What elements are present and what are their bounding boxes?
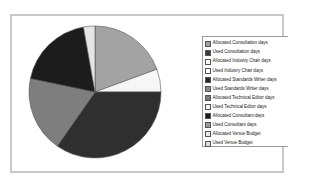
legend-item: Used Technical Editor days <box>205 103 288 112</box>
legend-item: Allocated Venue Budget <box>205 130 288 139</box>
legend-swatch-icon <box>205 95 211 101</box>
legend-swatch-icon <box>205 50 211 56</box>
legend-swatch-icon <box>205 86 211 92</box>
legend-item: Allocated Consultant days <box>205 112 288 121</box>
legend-label: Used Industry Chair days <box>213 69 263 74</box>
legend-swatch-icon <box>205 122 211 128</box>
legend-swatch-icon <box>205 113 211 119</box>
legend-label: Allocated Industry Chair days <box>213 59 271 64</box>
legend-label: Allocated Venue Budget <box>213 132 261 137</box>
legend-label: Used Standards Writer days <box>213 87 269 92</box>
pie-chart <box>27 24 163 160</box>
legend-label: Used Technical Editor days <box>213 105 267 110</box>
legend-item: Allocated Technical Editor days <box>205 94 288 103</box>
legend-item: Allocated Consultation days <box>205 39 288 48</box>
pie-svg <box>27 24 163 160</box>
legend-item: Used Industry Chair days <box>205 66 288 75</box>
legend-item: Allocated Standards Writer days <box>205 75 288 84</box>
legend-item: Used Consultant days <box>205 121 288 130</box>
legend-swatch-icon <box>205 59 211 65</box>
legend-swatch-icon <box>205 141 211 147</box>
legend-label: Used Consultant days <box>213 123 257 128</box>
legend-swatch-icon <box>205 104 211 110</box>
legend-label: Used Consultation days <box>213 50 260 55</box>
legend-item: Used Consultation days <box>205 48 288 57</box>
legend-item: Used Standards Writer days <box>205 84 288 93</box>
legend-label: Allocated Standards Writer days <box>213 78 277 83</box>
legend-swatch-icon <box>205 131 211 137</box>
legend-label: Used Venue Budget <box>213 141 253 146</box>
chart-legend: Allocated Consultation days Used Consult… <box>202 36 288 147</box>
legend-label: Allocated Consultation days <box>213 41 268 46</box>
legend-label: Allocated Technical Editor days <box>213 96 275 101</box>
legend-swatch-icon <box>205 41 211 47</box>
legend-label: Allocated Consultant days <box>213 114 265 119</box>
legend-item: Allocated Industry Chair days <box>205 57 288 66</box>
legend-item: Used Venue Budget <box>205 139 288 148</box>
legend-swatch-icon <box>205 77 211 83</box>
legend-swatch-icon <box>205 68 211 74</box>
